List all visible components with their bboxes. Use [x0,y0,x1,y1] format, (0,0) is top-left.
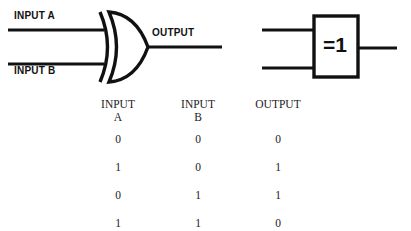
input-a-label: INPUT A [14,10,55,21]
cell-input-a: 0 [78,125,158,153]
cell-output: 1 [238,153,318,181]
header-input-b-top: INPUT [158,98,238,111]
input-b-label: INPUT B [14,65,55,76]
cell-input-a: 1 [78,153,158,181]
cell-output: 0 [238,209,318,231]
header-input-a-top: INPUT [78,98,158,111]
output-label: OUTPUT [152,27,194,38]
header-output-top: OUTPUT [238,98,318,111]
table-row: 1 0 1 [78,153,318,181]
cell-output: 1 [238,181,318,209]
header-output: OUTPUT [238,98,318,125]
cell-input-b: 0 [158,125,238,153]
cell-input-b: 1 [158,209,238,231]
cell-output: 0 [238,125,318,153]
iec-equals-one-label: =1 [323,33,347,57]
table-row: 0 1 1 [78,181,318,209]
header-input-b-sub: B [158,111,238,124]
table-row: 0 0 0 [78,125,318,153]
xor-gate-figure: INPUT A INPUT B OUTPUT =1 INPUT A INPUT … [0,0,411,231]
table-row: 1 1 0 [78,209,318,231]
cell-input-a: 1 [78,209,158,231]
header-input-a: INPUT A [78,98,158,125]
truth-table-grid: INPUT A INPUT B OUTPUT 0 0 [78,98,318,231]
cell-input-b: 0 [158,153,238,181]
or-body-shield [109,12,148,82]
header-input-a-sub: A [78,111,158,124]
cell-input-b: 1 [158,181,238,209]
table-header-row: INPUT A INPUT B OUTPUT [78,98,318,125]
truth-table: INPUT A INPUT B OUTPUT 0 0 [78,98,318,231]
cell-input-a: 0 [78,181,158,209]
xor-extra-arc [100,12,108,82]
header-input-b: INPUT B [158,98,238,125]
